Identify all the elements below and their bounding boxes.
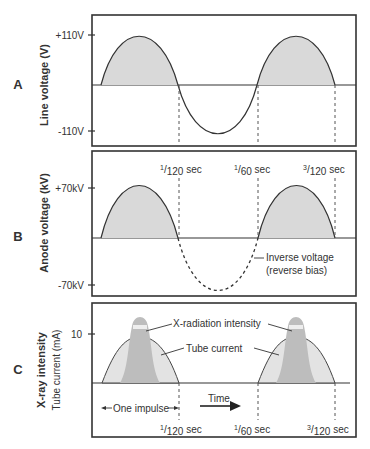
panel-a: +110V -110V Line voltage (V) A [13, 15, 356, 146]
panel-a-letter: A [13, 77, 23, 92]
tick-plus-70kv: +70kV [55, 183, 84, 194]
panel-a-ylabel: Line voltage (V) [38, 44, 50, 126]
reverse-bias-label: (reverse bias) [266, 265, 327, 276]
tube-current-label: Tube current [186, 343, 243, 354]
panel-b-letter: B [13, 229, 22, 244]
panel-c-ylabel-secondary: Tube current (mA) [51, 330, 62, 411]
one-impulse-label: One impulse [113, 403, 170, 414]
inverse-voltage-label: Inverse voltage [266, 252, 334, 263]
tick-minus-70kv: -70kV [58, 280, 84, 291]
panel-b: +70kV -70kV 1/120 sec 1/60 sec 3/120 sec… [13, 151, 356, 296]
xray-intensity-label: X-radiation intensity [173, 318, 261, 329]
panel-b-ylabel: Anode voltage (kV) [38, 173, 50, 273]
panel-c: 10 X-radiation intensity Tube current On… [13, 303, 356, 437]
panel-c-letter: C [13, 362, 23, 377]
panel-c-ylabel-primary: X-ray intensity [35, 331, 47, 408]
tick-plus-110v: +110V [56, 30, 85, 41]
tick-minus-110v: -110V [58, 126, 84, 137]
rectifier-diagram: +110V -110V Line voltage (V) A +70kV -70… [0, 0, 370, 449]
tick-10: 10 [71, 329, 83, 340]
time-label: Time [208, 393, 230, 404]
